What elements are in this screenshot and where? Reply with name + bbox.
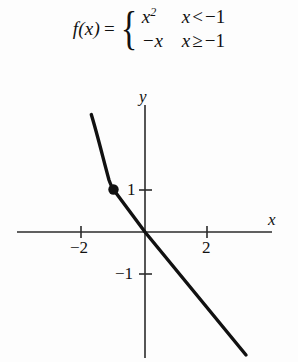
- case-expression-base: −x: [142, 30, 163, 51]
- x-tick-label-2: 2: [202, 238, 211, 258]
- case-expression-exponent: 2: [150, 5, 156, 19]
- case-condition-relation: ≥: [192, 30, 202, 51]
- linear-branch-path: [114, 190, 246, 355]
- case-condition-variable: x: [182, 30, 190, 51]
- y-tick-label-1: 1: [127, 180, 136, 200]
- equals-sign: =: [104, 18, 115, 40]
- case-expression: x2: [142, 6, 172, 28]
- coordinate-graph: x y −2 2 1 −1: [0, 88, 298, 362]
- left-curly-brace-icon: {: [120, 6, 137, 52]
- case-expression: −x: [142, 30, 172, 52]
- case-row: x2 x<−1: [142, 6, 225, 28]
- cases-list: x2 x<−1 −x x≥−1: [142, 6, 225, 52]
- parabola-branch-path: [91, 115, 114, 190]
- graph-canvas: [0, 88, 298, 362]
- piecewise-formula: f(x) = { x2 x<−1 −x x≥−1: [0, 6, 298, 52]
- y-tick-label-minus1: −1: [115, 264, 133, 284]
- case-condition: x≥−1: [182, 30, 225, 52]
- case-condition-bound: −1: [205, 30, 225, 51]
- x-tick-label-minus2: −2: [70, 238, 88, 258]
- case-condition: x<−1: [182, 6, 225, 28]
- y-axis-label: y: [139, 87, 147, 107]
- piecewise-function-figure: f(x) = { x2 x<−1 −x x≥−1: [0, 0, 298, 362]
- case-condition-relation: <: [192, 6, 203, 27]
- case-row: −x x≥−1: [142, 30, 225, 52]
- closed-endpoint-dot: [108, 184, 118, 194]
- x-axis-label: x: [268, 210, 276, 230]
- case-expression-base: x: [142, 6, 150, 27]
- case-condition-variable: x: [182, 6, 190, 27]
- function-name-label: f(x): [73, 18, 100, 40]
- case-condition-bound: −1: [205, 6, 225, 27]
